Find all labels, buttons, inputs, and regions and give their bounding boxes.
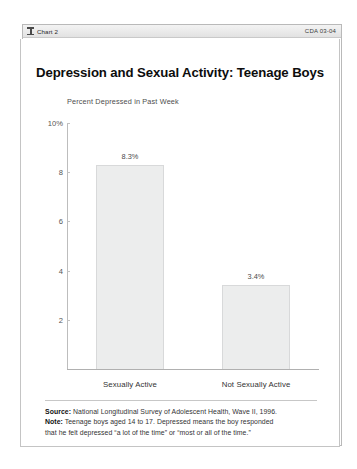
chart-panel: Depression and Sexual Activity: Teenage … <box>20 39 340 447</box>
window-title: Chart 2 <box>37 28 58 35</box>
footnote-note-text-1: Teenage boys aged 14 to 17. Depressed me… <box>65 418 274 425</box>
y-tick-mark <box>67 320 70 321</box>
footnote-source-text: National Longitudinal Survey of Adolesce… <box>73 408 277 415</box>
footnote-source: Source: National Longitudinal Survey of … <box>45 407 323 417</box>
y-tick-mark <box>67 172 70 173</box>
footnote-source-label: Source: <box>45 408 71 415</box>
y-tick-label: 4 <box>59 266 63 275</box>
y-tick-label: 2 <box>59 315 63 324</box>
footnotes: Source: National Longitudinal Survey of … <box>45 407 323 438</box>
chart-window: Chart 2 CDA 03-04 Depression and Sexual … <box>22 24 342 446</box>
y-tick-label: 8 <box>59 168 63 177</box>
y-axis-line <box>67 123 68 370</box>
footnote-note-line-1: Note: Teenage boys aged 14 to 17. Depres… <box>45 417 323 427</box>
y-tick-mark <box>67 271 70 272</box>
footnote-divider <box>45 400 317 401</box>
y-axis-subtitle: Percent Depressed in Past Week <box>67 97 179 106</box>
y-tick-mark <box>67 221 70 222</box>
category-label: Sexually Active <box>103 380 157 389</box>
chart-panel-inner: Depression and Sexual Activity: Teenage … <box>20 39 340 447</box>
chart-column-icon <box>27 27 34 35</box>
plot-area: Percent Depressed in Past Week 10%8642 8… <box>21 39 339 446</box>
bar <box>222 285 290 369</box>
footnote-note-label: Note: <box>45 418 63 425</box>
window-titlebar: Chart 2 CDA 03-04 <box>23 25 341 38</box>
y-tick-label: 10% <box>48 119 63 128</box>
window-code-label: CDA 03-04 <box>305 28 337 34</box>
bar-value-label: 8.3% <box>122 152 139 161</box>
y-tick-label: 6 <box>59 217 63 226</box>
y-tick-mark <box>67 123 70 124</box>
bar-value-label: 3.4% <box>248 272 265 281</box>
bar <box>96 165 164 369</box>
footnote-note-line-2: that he felt depressed “a lot of the tim… <box>45 428 323 438</box>
x-axis-line <box>67 369 319 370</box>
category-label: Not Sexually Active <box>222 380 291 389</box>
